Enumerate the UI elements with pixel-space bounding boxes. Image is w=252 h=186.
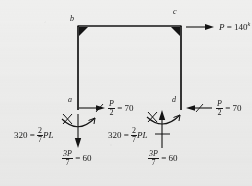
shear-right-equals: =: [225, 103, 230, 113]
load-arrow-c: [186, 24, 214, 30]
moment-right-denominator: 7: [131, 135, 137, 144]
axial-left-value: 60: [82, 153, 91, 163]
load-equals: =: [227, 22, 232, 32]
axial-left-equals: =: [75, 153, 80, 163]
figure-page: { "figure": { "type": "structural-free-b…: [0, 0, 252, 186]
axial-right-value: 60: [168, 153, 177, 163]
shear-left-denominator: 2: [108, 108, 115, 117]
moment-right-label: 320 = 2 7 PL: [108, 127, 148, 144]
moment-right-fraction: 2 7: [131, 127, 137, 144]
shear-left-value: 70: [124, 103, 133, 113]
shear-right-value: 70: [232, 103, 241, 113]
load-value: 140: [234, 22, 248, 32]
shear-left-equals: =: [117, 103, 122, 113]
shear-arrow-a: [79, 104, 105, 112]
joint-gussets: [79, 27, 180, 36]
frame-members: [78, 26, 182, 110]
load-symbol: P: [219, 22, 225, 32]
moment-right-value: 320: [108, 130, 122, 140]
node-label-a: a: [68, 96, 72, 104]
axial-left-label: 3P 7 = 60: [62, 150, 91, 167]
axial-right-numerator: 3P: [148, 150, 159, 158]
axial-right-equals: =: [161, 153, 166, 163]
axial-right-fraction: 3P 7: [148, 150, 159, 167]
shear-left-label: P 2 = 70: [108, 100, 133, 117]
gusset-b-icon: [79, 27, 88, 36]
shear-arrow-d: [186, 104, 212, 112]
axial-arrow-a: [75, 114, 81, 148]
moment-left-term: PL: [43, 130, 54, 140]
moment-left-label: 320 = 2 7 PL: [14, 127, 54, 144]
shear-left-fraction: P 2: [108, 100, 115, 117]
axial-left-denominator: 7: [62, 158, 73, 167]
moment-right-term: PL: [137, 130, 148, 140]
moment-left-fraction: 2 7: [37, 127, 43, 144]
shear-right-fraction: P 2: [216, 100, 223, 117]
node-label-d: d: [172, 96, 176, 104]
axial-left-numerator: 3P: [62, 150, 73, 158]
axial-right-denominator: 7: [148, 158, 159, 167]
shear-right-denominator: 2: [216, 108, 223, 117]
moment-left-value: 320: [14, 130, 28, 140]
moment-left-numerator: 2: [37, 127, 43, 135]
moment-left-denominator: 7: [37, 135, 43, 144]
node-label-b: b: [70, 15, 74, 23]
moment-right-equals: =: [124, 130, 129, 140]
gusset-c-icon: [171, 27, 180, 36]
shear-right-numerator: P: [216, 100, 223, 108]
moment-left-equals: =: [30, 130, 35, 140]
applied-load-label: P = 140k: [219, 21, 250, 32]
shear-left-numerator: P: [108, 100, 115, 108]
shear-right-label: P 2 = 70: [216, 100, 241, 117]
axial-right-label: 3P 7 = 60: [148, 150, 177, 167]
axial-arrow-d: [155, 110, 170, 148]
node-label-c: c: [173, 8, 177, 16]
frame-diagram: [0, 0, 252, 186]
moment-right-numerator: 2: [131, 127, 137, 135]
axial-left-fraction: 3P 7: [62, 150, 73, 167]
load-unit: k: [248, 21, 251, 27]
